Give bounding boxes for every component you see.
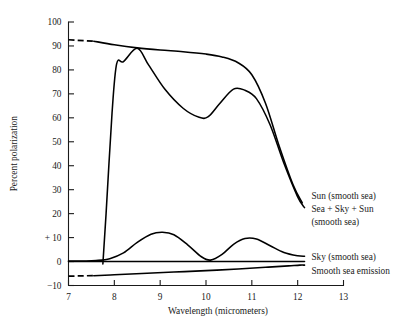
y-tick-label-8: 70	[52, 89, 62, 99]
y-tick-label-0: −10	[47, 281, 62, 291]
x-tick-label-1: 8	[112, 292, 117, 302]
y-tick-label-2: + 10	[45, 233, 62, 243]
y-tick-label-1: 0	[57, 257, 62, 267]
x-axis-title: Wavelength (micrometers)	[168, 306, 268, 317]
annotation-smooth-sea: (smooth sea)	[311, 217, 359, 228]
series-sea-sky-sun-smooth-sea	[103, 48, 305, 264]
y-axis-title: Percent polarization	[9, 116, 19, 192]
chart-annotations: Sun (smooth sea)Sea + Sky + Sun(smooth s…	[311, 191, 390, 276]
x-tick-label-6: 13	[339, 292, 349, 302]
x-tick-label-3: 10	[201, 292, 211, 302]
y-tick-label-11: 100	[48, 17, 62, 27]
chart-page: −100+ 10203040506070809010078910111213 S…	[0, 0, 401, 327]
polarization-chart: −100+ 10203040506070809010078910111213 S…	[0, 0, 401, 327]
y-tick-label-7: 60	[52, 113, 62, 123]
series-smooth-sea-emission-leader	[69, 276, 97, 277]
y-tick-label-4: 30	[52, 185, 62, 195]
y-tick-label-9: 80	[52, 65, 62, 75]
chart-series	[69, 40, 305, 276]
annotation-sun-smooth-sea: Sun (smooth sea)	[311, 191, 376, 202]
x-tick-label-4: 11	[247, 292, 256, 302]
annotation-smooth-sea-emission: Smooth sea emission	[311, 266, 390, 276]
chart-tick-labels: −100+ 10203040506070809010078910111213	[45, 17, 349, 301]
series-sun-smooth-sea	[94, 41, 303, 203]
x-tick-label-0: 7	[66, 292, 71, 302]
x-tick-label-5: 12	[293, 292, 303, 302]
series-sun-smooth-sea-leader	[69, 40, 97, 42]
annotation-sea-sky-sun: Sea + Sky + Sun	[311, 204, 373, 214]
y-tick-label-10: 90	[52, 41, 62, 51]
y-tick-label-5: 40	[52, 161, 62, 171]
annotation-sky-smooth-sea: Sky (smooth sea)	[311, 252, 376, 263]
series-smooth-sea-emission	[94, 265, 305, 276]
x-tick-label-2: 9	[158, 292, 163, 302]
y-tick-label-6: 50	[52, 137, 62, 147]
y-tick-label-3: 20	[52, 209, 62, 219]
